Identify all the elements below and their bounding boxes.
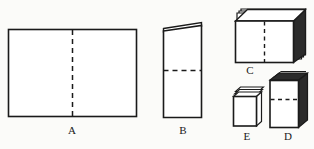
figure-c-group	[236, 9, 306, 63]
figure-c-front-face	[236, 21, 294, 63]
figure-c-top-face	[236, 10, 306, 22]
figure-e-group	[234, 87, 264, 126]
figure-d-front-face	[270, 81, 299, 128]
figure-label-b: B	[179, 124, 187, 136]
figure-label-c: C	[246, 64, 254, 76]
figure-b-group	[164, 23, 202, 118]
paper-folding-figure: A B C D E	[0, 0, 314, 149]
figure-label-d: D	[284, 130, 292, 142]
figure-e-front-face	[234, 97, 257, 127]
figure-label-a: A	[68, 124, 76, 136]
figure-b-body	[164, 26, 202, 118]
figure-a-group	[9, 30, 137, 117]
figure-d-right-face	[299, 74, 308, 128]
figure-label-e: E	[244, 130, 251, 142]
figure-d-group	[270, 72, 308, 128]
figure-drawing-canvas	[0, 0, 314, 149]
